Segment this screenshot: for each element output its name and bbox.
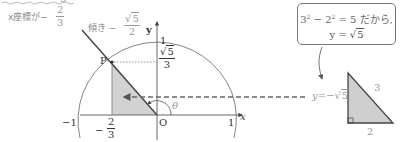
x-axis-label: x bbox=[240, 112, 246, 122]
reference-triangle bbox=[348, 73, 393, 123]
x-coord-denominator: 3 bbox=[56, 18, 64, 28]
p-x-minus: − bbox=[95, 126, 103, 136]
x-coord-numerator: 2 bbox=[56, 5, 64, 15]
slope-fraction: √5 2 bbox=[124, 14, 140, 37]
callout-arrow bbox=[319, 47, 322, 79]
slope-denominator: 2 bbox=[128, 27, 136, 37]
x-coord-annotation: x座標が− bbox=[8, 13, 48, 22]
arrow-label: y=−√5 bbox=[312, 91, 348, 101]
slope-prefix: 傾き − bbox=[88, 23, 116, 33]
origin-label: O bbox=[159, 118, 167, 128]
x-coord-fraction: 2 3 bbox=[56, 5, 64, 28]
base-label: 2 bbox=[367, 127, 373, 137]
p-y-root: 5 bbox=[166, 45, 173, 57]
point-P-label: P bbox=[100, 56, 107, 66]
callout-line2: y = √5 bbox=[298, 29, 395, 40]
p-x-denominator: 3 bbox=[107, 130, 115, 140]
x-one-label: 1 bbox=[228, 118, 234, 128]
point-P bbox=[110, 60, 113, 63]
x-coord-prefix: x座標が− bbox=[8, 12, 48, 22]
p-x-value-fraction: 2 3 bbox=[107, 117, 115, 140]
theta-label: θ bbox=[172, 101, 178, 111]
callout-line1: 32 − 22 = 5 だから, bbox=[298, 11, 395, 26]
callout-box: 32 − 22 = 5 だから, y = √5 bbox=[297, 3, 396, 45]
slope-annotation: 傾き − bbox=[88, 24, 116, 33]
hypotenuse-label: 3 bbox=[374, 83, 380, 93]
y-axis-label: y bbox=[146, 25, 152, 35]
p-y-value-fraction: √5 3 bbox=[159, 47, 175, 70]
slope-root: 5 bbox=[131, 12, 138, 24]
p-x-numerator: 2 bbox=[107, 117, 115, 127]
p-y-denominator: 3 bbox=[163, 60, 171, 70]
x-neg-one-label: −1 bbox=[62, 118, 77, 128]
